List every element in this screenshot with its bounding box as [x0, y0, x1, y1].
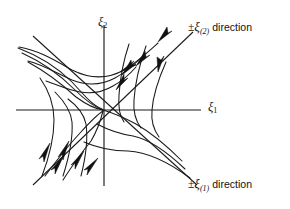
x-axis-subscript: 1	[213, 106, 217, 115]
y-axis-subscript: 2	[103, 21, 107, 30]
trajectory-top-1	[19, 43, 158, 77]
arrow-ll-4	[71, 151, 84, 169]
xi-index-xi2: (2)	[200, 27, 209, 36]
direction-word-xi1: direction	[212, 178, 252, 190]
arrow-ll-5	[84, 158, 98, 175]
arrow-ur-2	[136, 51, 150, 66]
y-axis-label: ξ2	[98, 16, 108, 30]
x-axis-label: ξ1	[208, 101, 218, 115]
trajectories-left	[40, 78, 87, 176]
trajectory-left-1	[40, 78, 54, 176]
arrow-ll-3	[51, 155, 64, 174]
arrow-ur-1	[158, 27, 172, 42]
trajectories-upper-left	[18, 48, 103, 110]
direction-label-xi1: ±ξ(1) direction	[188, 177, 252, 193]
phase-portrait-figure: ξ2 ξ1 ±ξ(2) direction ±ξ(1) direction	[0, 0, 290, 209]
direction-word-xi2: direction	[212, 21, 252, 33]
arrow-ll-1	[39, 143, 50, 162]
xi-index-xi1: (1)	[200, 184, 209, 193]
direction-label-xi2: ±ξ(2) direction	[188, 20, 252, 36]
trajectory-right-3	[152, 62, 166, 137]
trajectory-bot-3	[84, 142, 190, 178]
